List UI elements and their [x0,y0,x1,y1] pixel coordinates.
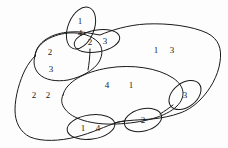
label-center-a: 4 [105,80,110,90]
label-bottom-center-ellipse: 2 [141,115,146,125]
label-top-small-lower: 4 [78,28,83,38]
connector-right-link [160,105,173,114]
label-right-ellipse: 3 [183,90,188,100]
central-large-ellipse [62,66,183,124]
label-left-outer-b: 2 [46,90,51,100]
label-bottom-left-ellipse-a: 1 [81,123,86,133]
label-left-upper: 2 [48,47,53,57]
label-top-small-upper: 1 [78,16,83,26]
outer-boundary-curve [15,24,221,141]
label-left-outer-a: 2 [32,90,37,100]
label-left-lower: 3 [49,64,54,74]
label-top-right-ellipse-right: 3 [103,36,108,46]
label-bottom-left-ellipse-b: 4 [96,123,101,133]
label-right-upper-a: 1 [154,45,159,55]
label-top-right-ellipse-left: 2 [88,37,93,47]
label-center-b: 1 [129,80,134,90]
label-right-upper-b: 3 [170,45,175,55]
diagram-svg [0,0,228,148]
set-diagram-figure: 1 4 2 3 2 3 1 3 4 1 2 2 3 1 4 2 [0,0,228,148]
